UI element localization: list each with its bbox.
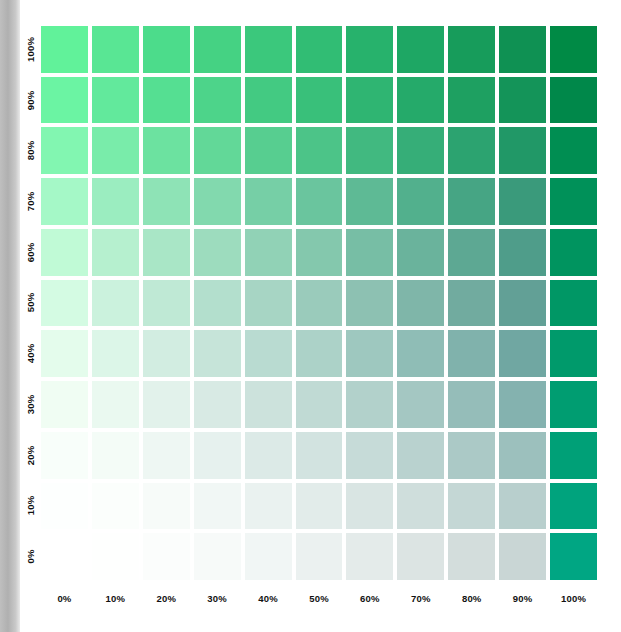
color-swatch: [245, 381, 292, 428]
color-swatch: [92, 229, 139, 276]
color-swatch: [92, 483, 139, 530]
y-axis-tick-text: 10%: [25, 496, 36, 516]
color-swatch: [346, 432, 393, 479]
color-swatch: [499, 178, 546, 225]
color-swatch: [92, 77, 139, 124]
color-swatch: [550, 178, 597, 225]
color-swatch: [143, 280, 190, 327]
color-swatch: [397, 77, 444, 124]
color-swatch: [143, 381, 190, 428]
y-axis-tick-label: 30%: [20, 381, 41, 428]
y-axis-tick-text: 20%: [25, 445, 36, 465]
color-swatch: [550, 229, 597, 276]
color-swatch: [92, 533, 139, 580]
color-swatch: [448, 26, 495, 73]
color-swatch: [346, 178, 393, 225]
color-swatch: [143, 77, 190, 124]
color-swatch: [41, 533, 88, 580]
color-swatch: [296, 533, 343, 580]
color-swatch: [397, 280, 444, 327]
y-axis-tick-label: 70%: [20, 178, 41, 225]
color-swatch: [499, 26, 546, 73]
x-axis-tick-label: 80%: [448, 588, 495, 608]
color-swatch: [143, 127, 190, 174]
color-swatch: [245, 178, 292, 225]
color-swatch: [41, 77, 88, 124]
y-axis-tick-label: 20%: [20, 432, 41, 479]
color-swatch: [143, 432, 190, 479]
color-swatch: [346, 533, 393, 580]
color-swatch: [92, 127, 139, 174]
color-swatch: [143, 330, 190, 377]
color-swatch: [296, 77, 343, 124]
color-swatch: [448, 280, 495, 327]
color-swatch: [448, 533, 495, 580]
x-axis-tick-label: 50%: [296, 588, 343, 608]
y-axis-tick-label: 40%: [20, 330, 41, 377]
y-axis-labels: 100%90%80%70%60%50%40%30%20%10%0%: [20, 26, 41, 580]
x-axis-tick-label: 60%: [346, 588, 393, 608]
color-chart-page: CHAPTER 4 100%90%80%70%60%50%40%30%20%10…: [0, 0, 621, 632]
color-swatch: [448, 330, 495, 377]
color-swatch: [41, 280, 88, 327]
color-swatch: [245, 330, 292, 377]
color-swatch: [397, 330, 444, 377]
x-axis-tick-label: 40%: [245, 588, 292, 608]
y-axis-tick-label: 90%: [20, 77, 41, 124]
color-swatch: [92, 178, 139, 225]
color-swatch: [245, 26, 292, 73]
color-swatch: [41, 330, 88, 377]
color-swatch: [346, 381, 393, 428]
color-swatch: [41, 483, 88, 530]
color-swatch: [143, 26, 190, 73]
color-swatch: [245, 483, 292, 530]
y-axis-tick-label: 100%: [20, 26, 41, 73]
color-swatch: [397, 381, 444, 428]
x-axis-tick-label: 100%: [550, 588, 597, 608]
color-swatch: [296, 229, 343, 276]
color-swatch: [92, 432, 139, 479]
y-axis-tick-label: 0%: [20, 533, 41, 580]
color-swatch: [499, 533, 546, 580]
color-swatch: [194, 381, 241, 428]
color-swatch: [448, 178, 495, 225]
color-swatch: [194, 483, 241, 530]
color-swatch: [194, 280, 241, 327]
color-swatch: [41, 127, 88, 174]
color-swatch: [92, 26, 139, 73]
color-swatch: [499, 381, 546, 428]
color-swatch: [397, 127, 444, 174]
color-swatch: [245, 77, 292, 124]
color-swatch: [397, 483, 444, 530]
y-axis-tick-text: 30%: [25, 395, 36, 415]
color-swatch: [143, 178, 190, 225]
color-swatch: [346, 330, 393, 377]
color-swatch: [550, 533, 597, 580]
color-swatch: [346, 26, 393, 73]
color-swatch: [194, 26, 241, 73]
color-swatch-grid: [41, 26, 597, 580]
color-swatch: [194, 229, 241, 276]
color-swatch: [397, 229, 444, 276]
color-swatch: [448, 229, 495, 276]
color-swatch: [41, 178, 88, 225]
x-axis-labels: 0%10%20%30%40%50%60%70%80%90%100%: [41, 588, 597, 608]
color-swatch: [296, 280, 343, 327]
x-axis-tick-label: 30%: [194, 588, 241, 608]
y-axis-tick-text: 70%: [25, 192, 36, 212]
color-swatch: [448, 127, 495, 174]
color-swatch: [499, 77, 546, 124]
color-swatch: [550, 330, 597, 377]
color-swatch: [296, 127, 343, 174]
y-axis-tick-label: 60%: [20, 229, 41, 276]
color-swatch: [92, 280, 139, 327]
color-swatch: [550, 77, 597, 124]
color-swatch: [245, 229, 292, 276]
color-swatch: [550, 381, 597, 428]
color-swatch: [194, 330, 241, 377]
chapter-sidebar-tab: CHAPTER 4: [0, 0, 20, 632]
y-axis-tick-text: 40%: [25, 344, 36, 364]
y-axis-tick-text: 100%: [25, 37, 36, 62]
color-swatch: [296, 178, 343, 225]
color-swatch: [296, 26, 343, 73]
